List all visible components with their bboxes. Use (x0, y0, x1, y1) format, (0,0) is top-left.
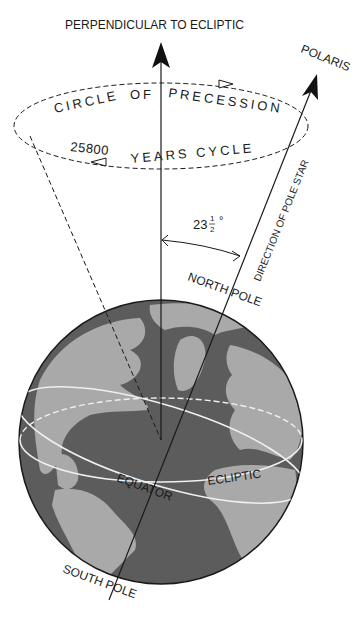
label-cycle-text: YEARS CYCLE (130, 140, 255, 166)
label-polaris: POLARIS (299, 42, 352, 74)
label-perpendicular: PERPENDICULAR TO ECLIPTIC (65, 18, 244, 32)
angle-arc (162, 240, 240, 256)
precession-arrow-forward-icon (219, 80, 233, 88)
label-of: OF (130, 87, 154, 102)
label-cycle-years: 25800 (70, 139, 110, 158)
angle-degree: ° (219, 214, 223, 226)
angle-numerator: 1 (210, 214, 215, 223)
precession-arrow-back-icon (91, 158, 106, 166)
label-direction: DIRECTION OF POLE STAR (252, 158, 311, 283)
label-circle: CIRCLE (53, 88, 120, 116)
angle-label: 23 1 2 ° (193, 214, 223, 234)
angle-whole: 23 (193, 217, 207, 232)
precession-diagram: PERPENDICULAR TO ECLIPTIC POLARIS CIRCLE… (0, 0, 364, 633)
angle-denominator: 2 (210, 225, 215, 234)
label-precession: PRECESSION (168, 85, 284, 116)
polaris-arrow-icon (302, 74, 318, 100)
land-eurasia (226, 345, 304, 460)
